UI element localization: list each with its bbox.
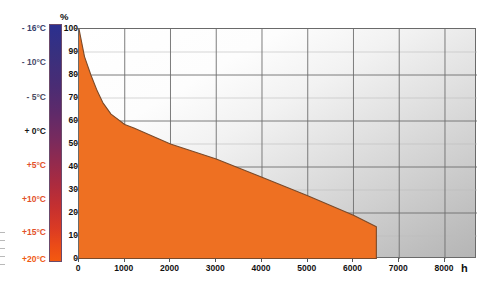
temperature-label-5: +10°C [2, 195, 46, 204]
temperature-label-3: + 0°C [2, 127, 46, 136]
temperature-label-2: - 5°C [2, 93, 46, 102]
temperature-scale-labels: - 16°C- 10°C- 5°C+ 0°C+5°C+10°C+15°C+20°… [0, 0, 46, 284]
x-axis-tick-labels: 010002000300040005000600070008000 [0, 264, 486, 280]
chart-figure: - 16°C- 10°C- 5°C+ 0°C+5°C+10°C+15°C+20°… [0, 0, 486, 284]
y-tick-mark-90 [74, 51, 78, 52]
x-tick-mark-2000 [169, 258, 170, 262]
area-fill [79, 29, 376, 259]
y-tick-mark-20 [74, 212, 78, 213]
x-axis-unit-label: h [461, 262, 468, 274]
x-tick-mark-7000 [398, 258, 399, 262]
temperature-label-4: +5°C [2, 161, 46, 170]
x-tick-label-0: 0 [76, 264, 81, 273]
y-tick-mark-30 [74, 189, 78, 190]
x-tick-mark-1000 [124, 258, 125, 262]
y-tick-mark-70 [74, 97, 78, 98]
x-tick-label-8000: 8000 [435, 264, 454, 273]
y-tick-mark-40 [74, 166, 78, 167]
x-tick-mark-3000 [215, 258, 216, 262]
x-tick-label-7000: 7000 [389, 264, 408, 273]
x-tick-label-4000: 4000 [252, 264, 271, 273]
x-tick-mark-0 [78, 258, 79, 262]
x-tick-label-5000: 5000 [297, 264, 316, 273]
temperature-label-6: +15°C [2, 228, 46, 237]
x-tick-label-1000: 1000 [114, 264, 133, 273]
temperature-label-1: - 10°C [2, 58, 46, 67]
area-series-curve [79, 29, 477, 259]
x-tick-mark-4000 [261, 258, 262, 262]
x-tick-mark-6000 [352, 258, 353, 262]
x-tick-label-6000: 6000 [343, 264, 362, 273]
x-tick-label-2000: 2000 [160, 264, 179, 273]
x-tick-mark-5000 [307, 258, 308, 262]
y-tick-mark-80 [74, 74, 78, 75]
y-tick-mark-100 [74, 28, 78, 29]
plot-area [78, 28, 476, 258]
x-tick-mark-8000 [444, 258, 445, 262]
y-tick-mark-60 [74, 120, 78, 121]
y-axis-tick-labels: 0102030405060708090100 [58, 16, 78, 266]
x-tick-label-3000: 3000 [206, 264, 225, 273]
y-tick-mark-50 [74, 143, 78, 144]
y-tick-mark-10 [74, 235, 78, 236]
temperature-label-7: +20°C [2, 255, 46, 264]
temperature-label-0: - 16°C [2, 24, 46, 33]
